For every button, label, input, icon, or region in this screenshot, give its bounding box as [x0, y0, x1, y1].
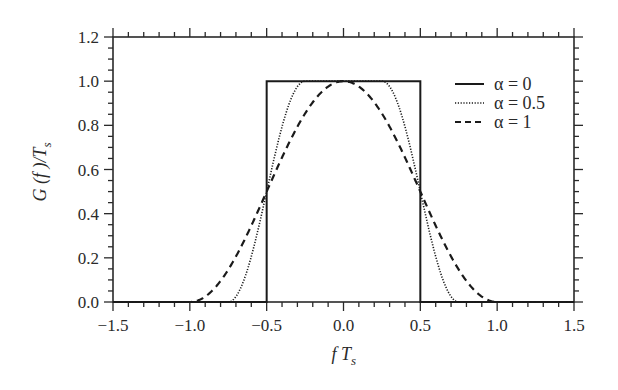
- x-tick-label: 1.0: [487, 316, 508, 335]
- raised-cosine-chart: −1.5−1.0−0.50.00.51.01.50.00.20.40.60.81…: [0, 0, 618, 390]
- y-tick-label: 0.0: [78, 293, 99, 312]
- y-tick-label: 1.0: [78, 72, 99, 91]
- y-tick-label: 0.2: [78, 249, 99, 268]
- x-tick-label: 1.5: [563, 316, 584, 335]
- legend-label: α = 0: [494, 74, 532, 94]
- legend-label: α = 0.5: [494, 93, 545, 113]
- axis-ticks: [104, 28, 583, 311]
- y-tick-label: 0.6: [78, 161, 99, 180]
- y-tick-label: 0.8: [78, 116, 99, 135]
- x-tick-label: 0.0: [333, 316, 354, 335]
- y-tick-label: 0.4: [78, 205, 100, 224]
- legend: α = 0α = 0.5α = 1: [455, 74, 545, 132]
- x-axis-label: f Ts: [332, 344, 357, 368]
- x-tick-label: −0.5: [251, 316, 282, 335]
- x-tick-label: −1.0: [174, 316, 205, 335]
- y-tick-label: 1.2: [78, 28, 99, 47]
- y-axis-label: G (f )/Ts: [30, 142, 54, 201]
- x-tick-label: 0.5: [410, 316, 431, 335]
- legend-label: α = 1: [494, 112, 532, 132]
- x-tick-label: −1.5: [98, 316, 129, 335]
